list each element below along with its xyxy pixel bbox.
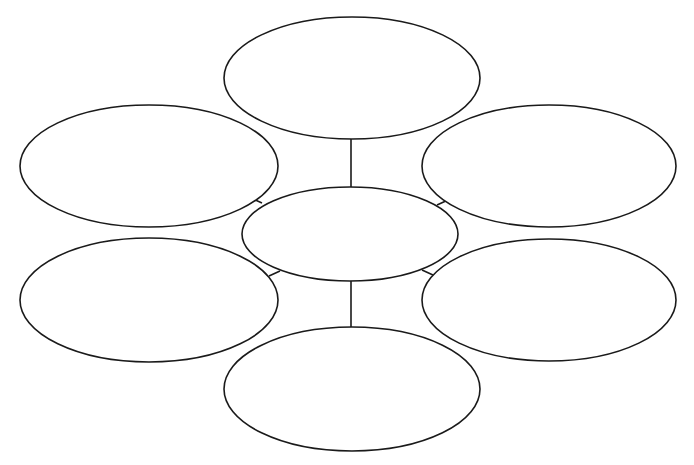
bubbles (20, 17, 676, 451)
bubble-lower-left[interactable] (20, 238, 278, 362)
bubble-map-diagram (0, 0, 694, 465)
bubble-lower-left-shape[interactable] (20, 238, 278, 362)
bubble-top[interactable] (224, 17, 480, 139)
bubble-bottom-shape[interactable] (224, 327, 480, 451)
bubble-upper-left[interactable] (20, 105, 278, 227)
bubble-center-shape[interactable] (242, 187, 458, 281)
connector-center-to-lower-right (422, 270, 433, 275)
bubble-upper-right-shape[interactable] (422, 105, 676, 227)
bubble-top-shape[interactable] (224, 17, 480, 139)
bubble-lower-right-shape[interactable] (422, 239, 676, 361)
connector-center-to-lower-left (269, 271, 280, 276)
bubble-upper-left-shape[interactable] (20, 105, 278, 227)
bubble-lower-right[interactable] (422, 239, 676, 361)
bubble-center[interactable] (242, 187, 458, 281)
bubble-bottom[interactable] (224, 327, 480, 451)
bubble-upper-right[interactable] (422, 105, 676, 227)
